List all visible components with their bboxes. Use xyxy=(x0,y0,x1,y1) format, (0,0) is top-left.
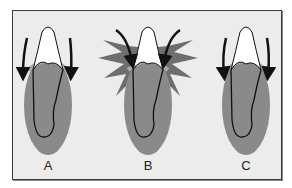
left-arrow-icon xyxy=(23,38,27,74)
panel-label-c: C xyxy=(236,158,256,173)
panel-label-a: A xyxy=(38,158,58,173)
crown-icon xyxy=(231,27,261,70)
crown-icon xyxy=(33,27,63,70)
panel-a xyxy=(23,27,72,155)
panel-c xyxy=(222,27,270,155)
gum-ellipse xyxy=(24,55,72,155)
panel-label-b: B xyxy=(138,158,158,173)
right-arrow-icon xyxy=(267,38,269,74)
gum-ellipse xyxy=(222,55,270,155)
panel-b xyxy=(98,27,198,155)
gum-ellipse xyxy=(124,55,172,155)
right-arrow-icon xyxy=(70,38,71,74)
